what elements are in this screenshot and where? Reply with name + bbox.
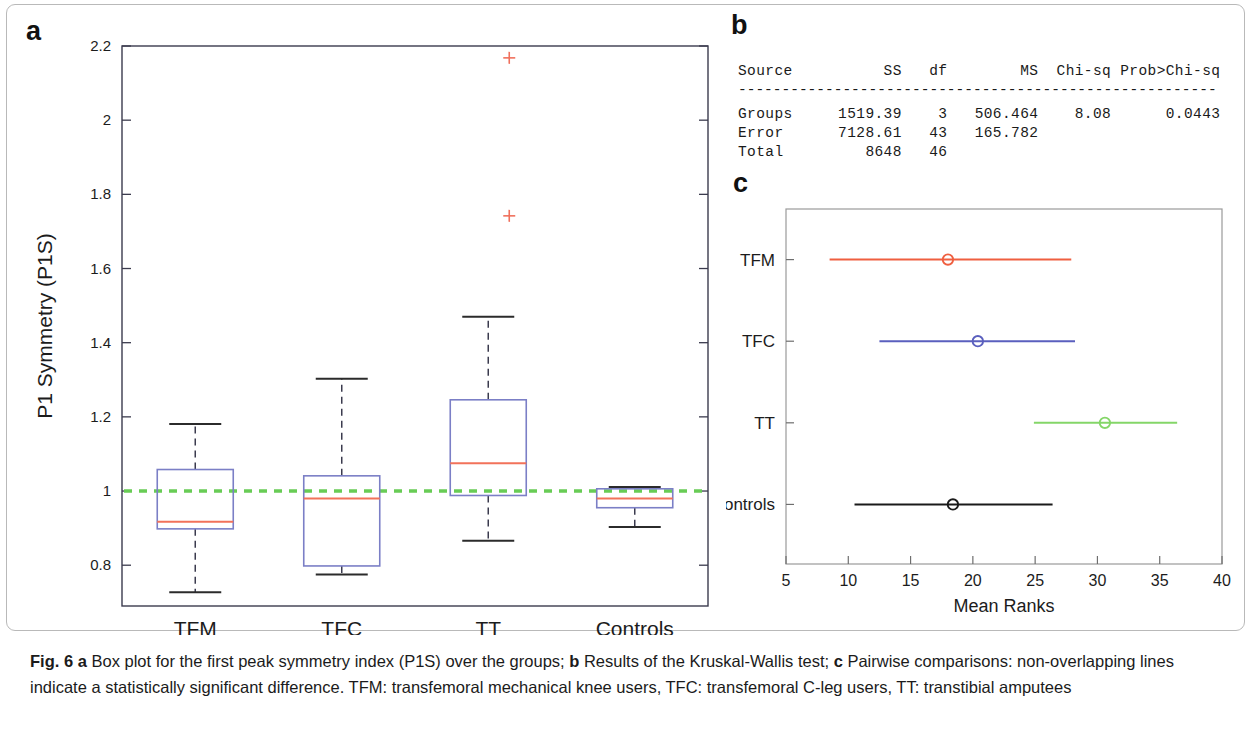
y-axis-title: P1 Symmetry (P1S)	[33, 233, 56, 419]
y-tick-label: 2	[103, 111, 111, 128]
c-row-label: TT	[754, 414, 775, 433]
y-tick-label: 0.8	[90, 556, 111, 573]
panel-c-multcompare: 510152025303540Mean RanksTFMTFCTTControl…	[726, 178, 1246, 618]
c-row-label: TFM	[740, 251, 775, 270]
c-x-axis-title: Mean Ranks	[953, 596, 1054, 616]
y-tick-label: 1.6	[90, 260, 111, 277]
y-tick-label: 1.4	[90, 334, 111, 351]
comparison-row-tt: TT	[754, 414, 1177, 433]
caption-text-b: Results of the Kruskal-Wallis test;	[579, 652, 833, 670]
stats-table-header: Source SS df MS Chi-sq Prob>Chi-sq	[738, 62, 1220, 81]
panel-a-boxplot: 0.811.21.41.61.822.2P1 Symmetry (P1S)TFM…	[10, 10, 720, 635]
multcompare-svg: 510152025303540Mean RanksTFMTFCTTControl…	[726, 178, 1246, 618]
y-tick-label: 1.8	[90, 185, 111, 202]
c-x-tick-label: 15	[902, 572, 920, 589]
boxplot-group-controls	[597, 487, 673, 527]
c-x-tick-label: 35	[1151, 572, 1169, 589]
c-row-label: TFC	[742, 332, 775, 351]
boxplot-group-tfm	[157, 424, 233, 592]
caption-tag-a: a	[78, 652, 87, 670]
caption-text-a: Box plot for the first peak symmetry ind…	[87, 652, 569, 670]
x-category-label: TFC	[321, 617, 362, 635]
boxplot-svg: 0.811.21.41.61.822.2P1 Symmetry (P1S)TFM…	[10, 10, 720, 635]
boxplot-group-tt	[450, 52, 526, 541]
stats-table-row: Groups 1519.39 3 506.464 8.08 0.0443	[738, 105, 1220, 124]
comparison-row-tfm: TFM	[740, 251, 1071, 270]
stats-table-row: Error 7128.61 43 165.782	[738, 124, 1220, 143]
comparison-row-controls: Controls	[726, 495, 1053, 514]
figure-caption: Fig. 6 a Box plot for the first peak sym…	[30, 648, 1235, 700]
c-x-tick-label: 5	[782, 572, 791, 589]
stats-table-separator: ----------------------------------------…	[738, 81, 1220, 100]
box-iqr	[157, 470, 233, 529]
x-category-label: TT	[475, 617, 501, 635]
panel-label-b: b	[731, 12, 748, 39]
x-category-label: Controls	[596, 617, 674, 635]
caption-tag-c: c	[834, 652, 843, 670]
c-row-label: Controls	[726, 495, 775, 514]
panel-c-frame	[786, 209, 1222, 564]
comparison-row-tfc: TFC	[742, 332, 1075, 351]
c-x-tick-label: 20	[964, 572, 982, 589]
caption-tag-b: b	[569, 652, 579, 670]
y-tick-label: 1.2	[90, 408, 111, 425]
box-iqr	[450, 400, 526, 496]
caption-fig-label: Fig. 6	[30, 652, 73, 670]
y-tick-label: 1	[103, 482, 111, 499]
c-x-tick-label: 30	[1089, 572, 1107, 589]
panel-b-stats-table: Source SS df MS Chi-sq Prob>Chi-sq------…	[738, 62, 1220, 162]
y-tick-label: 2.2	[90, 37, 111, 54]
c-x-tick-label: 25	[1026, 572, 1044, 589]
boxplot-group-tfc	[304, 379, 380, 575]
x-category-label: TFM	[174, 617, 217, 635]
c-x-tick-label: 40	[1213, 572, 1231, 589]
stats-table-row: Total 8648 46	[738, 143, 1220, 162]
c-x-tick-label: 10	[839, 572, 857, 589]
